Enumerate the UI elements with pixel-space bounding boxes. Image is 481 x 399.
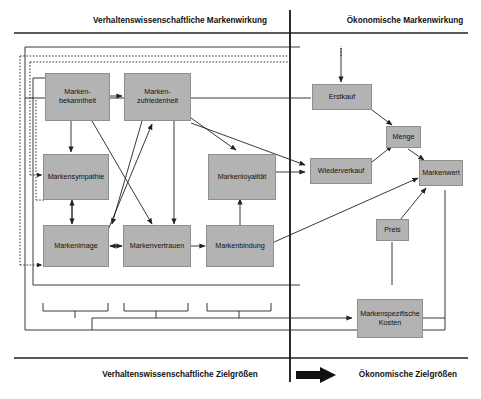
node-markenbindung[interactable]: Markenbindung — [206, 225, 274, 267]
node-erstkauf[interactable]: Erstkauf — [312, 84, 372, 110]
node-markenimage[interactable]: Markenimage — [43, 225, 109, 267]
node-markenzufriedenheit-line2: zufriedenheit — [137, 97, 178, 106]
node-wiederverkauf[interactable]: Wiederverkauf — [310, 158, 372, 184]
node-markenvertrauen[interactable]: Markenvertrauen — [123, 225, 191, 267]
node-kosten-line2: Kosten — [360, 319, 420, 328]
node-markenwert[interactable]: Markenwert — [419, 160, 463, 186]
node-markenspezifische-kosten[interactable]: Markenspezifische Kosten — [357, 299, 423, 338]
node-menge[interactable]: Menge — [386, 126, 421, 148]
node-markenbekanntheit[interactable]: Marken- bekanntheit — [45, 73, 110, 121]
node-markensympathie[interactable]: Markensympathie — [43, 154, 109, 200]
node-markenbekanntheit-line2: bekanntheit — [59, 97, 96, 106]
node-preis[interactable]: Preis — [376, 219, 409, 241]
node-markenloyalitaet[interactable]: Markenloyalität — [208, 154, 276, 200]
node-markenzufriedenheit[interactable]: Marken- zufriedenheit — [124, 73, 191, 121]
flow-direction-arrow-icon — [296, 366, 338, 384]
diagram-canvas: Verhaltenswissenschaftliche Markenwirkun… — [0, 0, 481, 399]
